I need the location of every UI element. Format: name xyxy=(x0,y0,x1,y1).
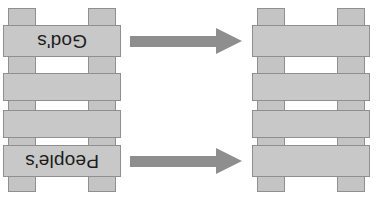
arrow-head-icon xyxy=(216,148,242,174)
arrow-head-icon xyxy=(216,28,242,54)
ladder-rung xyxy=(252,145,370,177)
ladder-rung: God's xyxy=(3,25,121,57)
arrow-shaft-icon xyxy=(130,36,218,47)
ladder-rung xyxy=(252,73,370,101)
transform-arrow-top xyxy=(130,27,250,55)
right-ladder xyxy=(249,0,379,200)
diagram-canvas: God's People's xyxy=(0,0,379,200)
ladder-rung xyxy=(3,73,121,101)
left-ladder: God's People's xyxy=(0,0,130,200)
ladder-rung xyxy=(252,110,370,138)
rung-label-peoples: People's xyxy=(25,152,99,171)
transform-arrow-bottom xyxy=(130,147,250,175)
rung-label-gods: God's xyxy=(37,32,87,51)
ladder-rung xyxy=(3,110,121,138)
arrow-shaft-icon xyxy=(130,156,218,167)
ladder-rung xyxy=(252,25,370,57)
ladder-rung: People's xyxy=(3,145,121,177)
